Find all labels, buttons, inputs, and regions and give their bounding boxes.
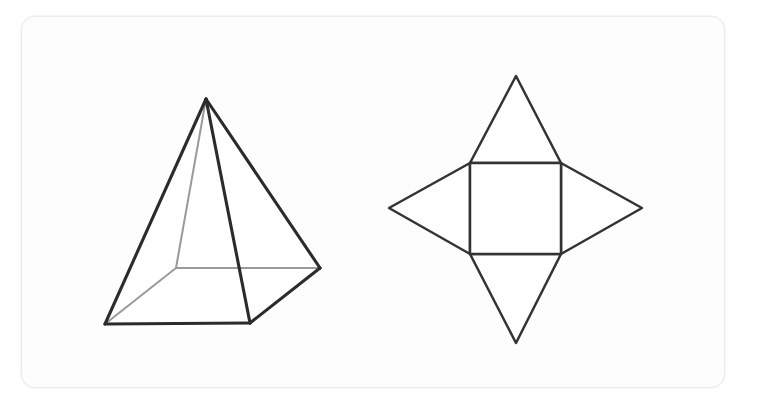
- figures-canvas: [0, 0, 758, 410]
- square-pyramid-figure: [105, 99, 320, 324]
- net-triangle-left: [389, 163, 470, 254]
- figure-page: [0, 0, 758, 410]
- net-square-base: [470, 163, 561, 254]
- pyramid-base-edge-front: [105, 323, 250, 324]
- square-pyramid-net-figure: [389, 76, 642, 343]
- net-triangle-top: [470, 76, 561, 163]
- net-triangle-bottom: [470, 254, 561, 343]
- net-triangle-right: [561, 163, 642, 254]
